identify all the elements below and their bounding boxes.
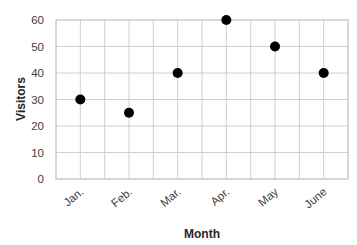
data-point — [221, 15, 231, 25]
scatter-chart: 0102030405060 Jan.Feb.Mar.Apr.MayJune Vi… — [0, 0, 357, 245]
y-tick-label: 50 — [31, 41, 44, 53]
data-point — [173, 68, 183, 78]
y-tick-label: 60 — [31, 14, 44, 26]
x-tick-label: Feb. — [109, 185, 134, 209]
data-point — [124, 108, 134, 118]
data-point — [75, 95, 85, 105]
data-point — [319, 68, 329, 78]
y-tick-label: 10 — [31, 147, 44, 159]
y-tick-label: 40 — [31, 67, 44, 79]
x-axis-ticks: Jan.Feb.Mar.Apr.MayJune — [61, 185, 329, 210]
y-tick-label: 20 — [31, 120, 44, 132]
y-tick-label: 0 — [38, 173, 44, 185]
y-tick-label: 30 — [31, 94, 44, 106]
data-point — [270, 42, 280, 52]
x-tick-label: May — [256, 185, 281, 208]
y-axis-ticks: 0102030405060 — [31, 14, 44, 185]
grid-lines — [56, 20, 348, 179]
x-tick-label: June — [302, 185, 329, 210]
y-axis-title: Visitors — [14, 77, 28, 121]
x-tick-label: Apr. — [208, 185, 231, 207]
x-tick-label: Mar. — [158, 185, 183, 209]
x-axis-title: Month — [184, 227, 220, 241]
x-tick-label: Jan. — [61, 185, 85, 208]
